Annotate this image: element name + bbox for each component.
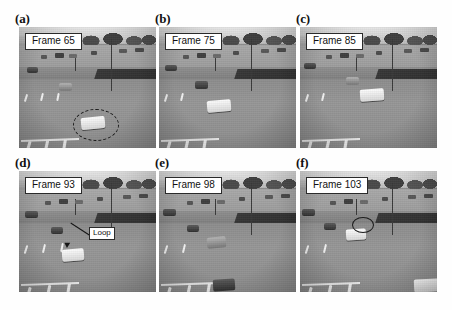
vehicle — [265, 195, 273, 199]
lane-dash — [186, 285, 192, 292]
vehicle — [344, 199, 353, 204]
frame-label-box-b: Frame 75 — [165, 33, 222, 50]
vehicle — [201, 199, 210, 204]
vehicle — [304, 63, 316, 69]
lane-dash — [180, 93, 184, 101]
lane-dash — [164, 245, 169, 254]
tracking-ellipse-marker — [73, 109, 119, 141]
vehicle — [281, 194, 290, 198]
vehicle — [414, 278, 437, 292]
lane-dash — [305, 94, 309, 102]
tracked-vehicle — [62, 248, 85, 262]
vehicle — [277, 48, 286, 52]
vehicle — [356, 54, 364, 58]
video-frame-a: Frame 65 — [19, 27, 156, 148]
figure-container: (a) — [0, 0, 452, 310]
vehicle — [340, 53, 349, 58]
utility-pole — [111, 39, 112, 91]
vehicle — [139, 194, 148, 198]
lane-dash — [206, 283, 211, 292]
lane-dash — [165, 141, 171, 148]
vehicle — [213, 278, 236, 292]
vehicle — [326, 55, 332, 59]
utility-pole — [251, 183, 252, 235]
lane-dash — [40, 93, 44, 101]
loop-annotation-label: Loop — [89, 227, 115, 240]
panel-letter-f: (f) — [296, 156, 308, 169]
panel-letter-b: (b) — [155, 12, 170, 25]
lane-dash — [343, 139, 348, 148]
vehicle — [346, 77, 359, 85]
frame-label-box-f: Frame 103 — [306, 177, 368, 194]
lane-dash — [321, 93, 325, 101]
tracked-vehicle — [207, 236, 227, 249]
vehicle — [55, 53, 64, 58]
lane-dash — [306, 287, 312, 292]
vehicle — [163, 209, 176, 216]
vehicle — [195, 81, 208, 89]
vehicle — [183, 55, 189, 59]
vehicle — [27, 67, 38, 73]
lane-dash — [66, 283, 71, 292]
tracked-vehicle — [207, 99, 232, 113]
lane-dash — [202, 139, 207, 148]
utility-pole — [392, 39, 393, 91]
video-frame-e: Frame 98 — [159, 171, 296, 292]
lane-dash — [323, 244, 327, 253]
video-frame-c: Frame 85 — [300, 27, 437, 148]
vehicle — [59, 83, 72, 91]
lane-dash — [164, 94, 168, 102]
panel-letter-c: (c) — [296, 12, 310, 25]
vehicle — [165, 65, 177, 71]
lane-dash — [305, 245, 310, 254]
vehicle — [382, 197, 388, 201]
utility-pole — [392, 183, 393, 235]
vehicle — [41, 55, 47, 59]
video-frame-f: Frame 103 — [300, 171, 437, 292]
vehicle — [91, 51, 97, 55]
vehicle — [404, 49, 412, 53]
vehicle — [360, 200, 368, 204]
roadway — [159, 79, 296, 148]
vehicle — [187, 201, 193, 205]
panel-letter-d: (d) — [15, 156, 30, 169]
lane-dash — [46, 285, 52, 292]
frame-label-box-c: Frame 85 — [306, 33, 363, 50]
lane-dash — [25, 141, 31, 148]
lane-dash — [25, 287, 31, 292]
lane-dash — [165, 287, 171, 292]
vehicle — [233, 51, 239, 55]
vehicle — [119, 49, 127, 53]
vehicle — [217, 200, 225, 204]
vehicle — [213, 54, 221, 58]
vehicle — [420, 48, 429, 52]
vehicle — [135, 48, 144, 52]
frame-label-box-d: Frame 93 — [25, 177, 82, 194]
vehicle — [376, 51, 382, 55]
vehicle — [330, 201, 336, 205]
vehicle — [302, 209, 315, 216]
vehicle — [75, 200, 83, 204]
vehicle — [25, 211, 38, 218]
lane-dash — [24, 245, 29, 254]
vehicle — [197, 53, 206, 58]
panel-letter-e: (e) — [155, 156, 169, 169]
lane-dash — [327, 285, 333, 292]
vehicle — [239, 197, 245, 201]
vehicle — [45, 201, 51, 205]
panel-letter-a: (a) — [15, 12, 30, 25]
lane-dash — [347, 283, 352, 292]
vehicle — [123, 195, 131, 199]
loop-ellipse-marker — [352, 217, 374, 233]
vehicle — [69, 54, 77, 58]
frame-label-box-e: Frame 98 — [165, 177, 222, 194]
vehicle — [408, 195, 416, 199]
lane-dash — [56, 93, 59, 101]
video-frame-b: Frame 75 — [159, 27, 296, 148]
lane-dash — [182, 244, 186, 253]
lane-dash — [42, 244, 46, 253]
lane-dash — [24, 94, 28, 102]
video-frame-d: Frame 93 Loop — [19, 171, 156, 292]
vehicle — [51, 227, 63, 234]
tracked-vehicle — [360, 88, 385, 102]
